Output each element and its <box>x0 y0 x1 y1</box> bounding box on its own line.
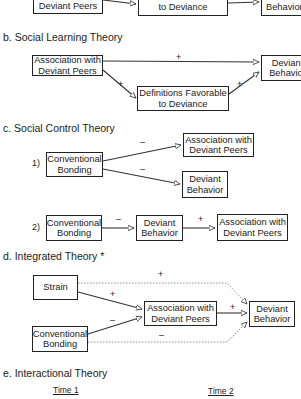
box-label: to Deviance <box>158 2 207 13</box>
c2-peers-box: Association with Deviant Peers <box>217 214 288 241</box>
a-definitions-box: to Deviance <box>138 0 228 16</box>
time-1-label: Time 1 <box>53 385 79 395</box>
heading-integrated: d. Integrated Theory * <box>3 250 104 262</box>
d-strain-box: Strain <box>33 275 78 300</box>
d-behavior-box: Deviant Behavior <box>249 301 295 327</box>
heading-social-learning: b. Social Learning Theory <box>3 31 122 43</box>
box-label: Deviant Peers <box>39 1 97 12</box>
c2-bonding-box: Conventional Bonding <box>46 215 102 241</box>
model-label: 2) <box>32 222 40 232</box>
c2-behavior-box: Deviant Behavior <box>136 215 183 241</box>
b-peers-box: Association with Deviant Peers <box>32 55 103 76</box>
sign: – <box>140 137 145 147</box>
a-peers-box: Deviant Peers <box>33 0 103 14</box>
heading-interactional: e. Interactional Theory <box>3 367 107 379</box>
sign: + <box>237 79 242 89</box>
c1-behavior-box: Deviant Behavior <box>182 171 228 198</box>
box-label: Behavior <box>266 2 301 13</box>
c1-bonding-box: Conventional Bonding <box>46 152 103 177</box>
sign: + <box>118 79 123 89</box>
sign: – <box>159 330 164 340</box>
sign: + <box>176 52 181 62</box>
b-definitions-box: Definitions Favorable to Deviance <box>137 86 229 111</box>
d-bonding-box: Conventional Bonding <box>32 326 88 352</box>
time-2-label: Time 2 <box>208 386 234 396</box>
sign: + <box>198 214 203 224</box>
sign: – <box>116 214 121 224</box>
model-label: 1) <box>32 158 40 168</box>
sign: – <box>140 164 145 174</box>
sign: + <box>158 269 163 279</box>
b-behavior-box: Deviant Behavior <box>261 55 301 81</box>
sign: – <box>110 315 115 325</box>
sign: + <box>110 289 115 299</box>
c1-peers-box: Association with Deviant Peers <box>183 133 254 157</box>
sign: + <box>230 302 235 312</box>
d-peers-box: Association with Deviant Peers <box>144 301 217 326</box>
a-behavior-box: Behavior <box>261 0 301 16</box>
heading-social-control: c. Social Control Theory <box>3 122 115 134</box>
